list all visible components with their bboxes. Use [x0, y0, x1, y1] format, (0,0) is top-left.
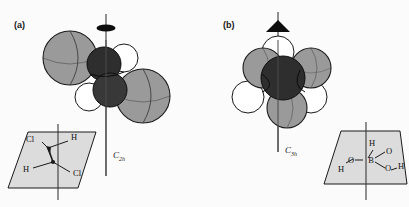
panel-a-atom-cl-top: Cl — [26, 134, 35, 144]
atom-sphere-carbon-lower — [93, 73, 127, 107]
panel-b-atom-h-far-right: H — [398, 161, 404, 171]
panel-a-atom-h-bottom: H — [23, 164, 29, 174]
panel-b-axis-label-sub: 3h — [290, 151, 297, 157]
panel-b-label: (b) — [223, 20, 235, 30]
panel-b: (b) C 3h H O B O O H H — [223, 12, 407, 200]
panel-b-atom-o-upper-right: O — [386, 146, 392, 156]
c2-rotation-marker-icon — [97, 24, 116, 31]
panel-b-atom-o-right-lower: O — [385, 163, 391, 173]
panel-b-atom-o-left: O — [348, 155, 354, 165]
panel-b-axis-label: C 3h — [285, 145, 297, 157]
panel-a-label: (a) — [14, 20, 25, 30]
panel-a-axis-label-sub: 2h — [119, 156, 125, 162]
panel-a-atom-cl-bottom: Cl — [73, 168, 82, 178]
panel-b-atom-h-top: H — [369, 138, 375, 148]
panel-a-atom-h-top: H — [71, 132, 77, 142]
c3-rotation-marker-icon — [266, 20, 290, 32]
panel-b-atom-boron: B — [368, 155, 374, 165]
panel-a: (a) C 2h Cl H H Cl — [8, 14, 170, 200]
panel-b-atom-h-lower-left: H — [338, 164, 344, 174]
panel-a-axis-label: C 2h — [113, 150, 125, 162]
atom-sphere-boron-center — [261, 56, 305, 100]
symmetry-figure: (a) C 2h Cl H H Cl — [0, 0, 409, 207]
